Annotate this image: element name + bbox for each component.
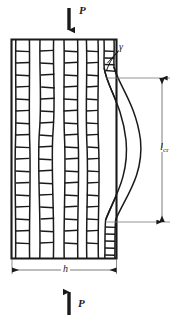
width-label: h — [61, 264, 70, 274]
load-label-bottom: P — [78, 298, 85, 309]
load-label-top: P — [79, 5, 86, 16]
figure-background — [0, 0, 177, 323]
critical-length-label: lcr — [160, 141, 169, 152]
gamma-label: γ — [119, 42, 123, 52]
fiber-microbuckling-figure — [0, 0, 177, 323]
critical-length-subscript: cr — [163, 146, 168, 154]
